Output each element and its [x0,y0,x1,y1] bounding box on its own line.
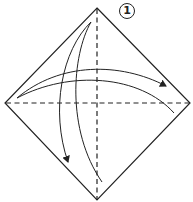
fold-down-arrow-icon [60,22,91,162]
origami-diagram: 1 [0,0,193,202]
fold-right-arrow-icon [17,69,166,98]
fold-down-return-curve [76,22,102,182]
step-number-badge: 1 [119,3,135,19]
fold-right-return-curve [17,80,174,113]
fold-diagram-canvas [0,0,193,202]
